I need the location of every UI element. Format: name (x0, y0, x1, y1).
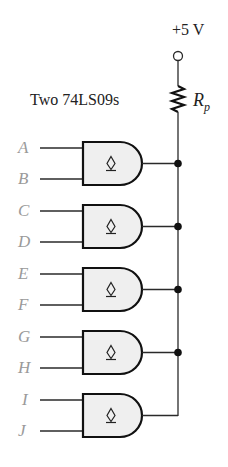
gate-body (83, 142, 142, 185)
input-label-F: F (18, 296, 28, 313)
junction-dot-icon (174, 286, 182, 294)
gate-body (83, 268, 142, 311)
resistor-label-sub: p (204, 100, 210, 114)
input-label-C: C (18, 202, 29, 219)
supply-terminal-icon (174, 52, 183, 61)
resistor-label: Rp (193, 92, 210, 115)
input-label-H: H (18, 359, 30, 376)
and-gate-2 (40, 205, 182, 248)
input-label-A: A (18, 139, 28, 156)
and-gate-4 (40, 331, 182, 374)
resistor-label-main: R (193, 90, 204, 110)
pullup-resistor-icon (172, 86, 184, 112)
input-label-G: G (18, 328, 30, 345)
input-label-I: I (22, 391, 28, 408)
gate-body (83, 331, 142, 374)
schematic-svg (0, 0, 228, 467)
ic-label: Two 74LS09s (30, 92, 119, 108)
gate-body (83, 205, 142, 248)
junction-dot-icon (174, 223, 182, 231)
and-gate-5 (40, 394, 178, 437)
junction-dot-icon (174, 349, 182, 357)
junction-dot-icon (174, 160, 182, 168)
input-label-D: D (18, 233, 30, 250)
input-label-J: J (18, 422, 26, 439)
gate-body (83, 394, 142, 437)
circuit-diagram: +5 V Two 74LS09s Rp ABCDEFGHIJ (0, 0, 228, 467)
input-label-E: E (18, 265, 28, 282)
and-gate-3 (40, 268, 182, 311)
and-gate-1 (40, 142, 182, 185)
supply-voltage-label: +5 V (172, 22, 204, 38)
input-label-B: B (18, 170, 28, 187)
